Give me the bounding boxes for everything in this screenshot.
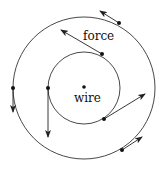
charge-dot-inner-upper-right (100, 52, 104, 56)
force-arrow-inner-lower-right (104, 94, 145, 119)
charge-dot-outer-left (11, 86, 15, 90)
wire-field-diagram: wire force (0, 0, 163, 175)
charge-dot-inner-left (46, 86, 50, 90)
force-label: force (83, 29, 114, 43)
force-arrow-outer-lower-right (122, 137, 142, 150)
charge-dot-outer-upper-right (117, 21, 121, 25)
charge-dot-outer-lower-right (120, 148, 124, 152)
wire-label: wire (74, 91, 101, 105)
force-arrow-outer-upper-right (100, 11, 119, 23)
wire-point (82, 85, 86, 89)
charge-dot-inner-lower-right (102, 117, 106, 121)
